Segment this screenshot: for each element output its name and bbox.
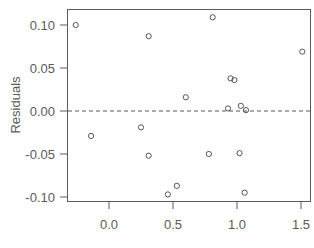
data-point (238, 103, 243, 108)
y-tick-label: -0.10 (25, 190, 55, 205)
data-point (73, 22, 78, 27)
data-point (138, 125, 143, 130)
y-tick-label: -0.05 (25, 147, 55, 162)
data-point (242, 190, 247, 195)
y-axis-title: Residuals (8, 76, 23, 134)
data-point (165, 192, 170, 197)
residual-plot: -0.10-0.050.000.050.10 0.00.51.01.5 Resi… (0, 0, 314, 248)
y-tick-label: 0.00 (30, 104, 55, 119)
x-tick-label: 1.5 (292, 217, 310, 232)
data-point (146, 34, 151, 39)
x-axis: 0.00.51.01.5 (100, 202, 310, 233)
x-tick-label: 0.5 (164, 217, 182, 232)
data-point (206, 151, 211, 156)
data-point (174, 183, 179, 188)
x-tick-label: 1.0 (228, 217, 246, 232)
plot-frame (68, 10, 311, 202)
data-point (237, 151, 242, 156)
y-axis: -0.10-0.050.000.050.10 (25, 18, 67, 205)
data-points (73, 15, 305, 197)
y-tick-label: 0.10 (30, 18, 55, 33)
data-point (210, 15, 215, 20)
y-tick-label: 0.05 (30, 61, 55, 76)
data-point (243, 108, 248, 113)
x-tick-label: 0.0 (100, 217, 118, 232)
data-point (183, 95, 188, 100)
data-point (146, 153, 151, 158)
data-point (225, 106, 230, 111)
data-point (300, 49, 305, 54)
data-point (88, 133, 93, 138)
